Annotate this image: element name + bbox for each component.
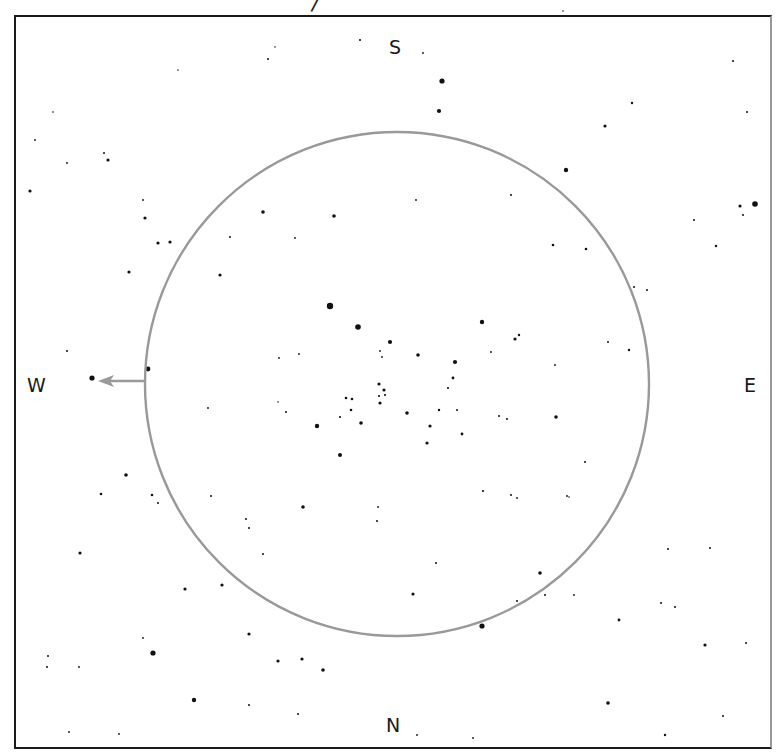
star	[461, 433, 464, 436]
star	[210, 495, 212, 497]
star	[68, 731, 70, 733]
star	[435, 562, 437, 564]
star	[584, 461, 586, 463]
star	[89, 375, 94, 380]
star	[664, 734, 666, 736]
star	[377, 382, 380, 385]
direction-west: W	[27, 374, 46, 396]
star	[262, 553, 264, 555]
star	[277, 401, 279, 403]
star	[633, 286, 635, 288]
star	[518, 334, 520, 336]
star	[607, 341, 609, 343]
star	[103, 152, 105, 154]
star	[66, 350, 68, 352]
star	[538, 571, 542, 575]
star	[382, 388, 385, 391]
star	[359, 421, 363, 425]
star	[338, 453, 342, 457]
star	[327, 303, 333, 309]
star	[482, 490, 484, 492]
star	[742, 214, 744, 216]
star	[566, 495, 568, 497]
star	[693, 219, 695, 221]
star	[276, 659, 279, 662]
motion-arrow	[98, 375, 146, 387]
star	[568, 496, 570, 498]
star	[156, 241, 159, 244]
star	[544, 594, 546, 596]
star	[456, 409, 458, 411]
star	[157, 502, 159, 504]
star	[506, 418, 508, 420]
star	[573, 594, 575, 596]
star	[34, 139, 36, 141]
direction-east: E	[744, 374, 756, 396]
star	[301, 505, 305, 509]
star	[447, 387, 449, 389]
star	[752, 201, 758, 207]
star	[379, 350, 381, 352]
star	[245, 518, 247, 520]
star	[127, 270, 130, 273]
star	[667, 548, 669, 550]
star	[428, 424, 431, 427]
star	[332, 214, 336, 218]
star	[298, 353, 300, 355]
star	[416, 734, 418, 736]
star	[562, 10, 564, 12]
star	[351, 398, 354, 401]
star	[738, 204, 741, 207]
star	[439, 78, 444, 83]
star	[415, 199, 417, 201]
star	[78, 551, 81, 554]
star	[377, 506, 379, 508]
star	[297, 713, 299, 715]
star	[100, 493, 103, 496]
star	[218, 273, 221, 276]
star	[321, 668, 325, 672]
star	[150, 650, 155, 655]
star	[207, 407, 209, 409]
star	[603, 124, 606, 127]
star	[248, 704, 250, 706]
star	[618, 619, 621, 622]
star	[425, 441, 428, 444]
star	[510, 494, 512, 496]
star	[143, 216, 146, 219]
star	[732, 60, 734, 62]
star	[405, 411, 409, 415]
star	[315, 424, 319, 428]
star	[746, 111, 748, 113]
star	[345, 397, 348, 400]
star	[106, 158, 109, 161]
star	[118, 733, 120, 735]
star	[437, 109, 441, 113]
star	[177, 69, 179, 71]
star	[411, 592, 414, 595]
star	[564, 168, 568, 172]
star	[422, 52, 424, 54]
star	[28, 189, 31, 192]
star	[745, 642, 747, 644]
star	[294, 237, 296, 239]
star	[52, 111, 54, 113]
star	[660, 602, 662, 604]
star	[510, 194, 512, 196]
star	[715, 245, 717, 247]
star	[438, 409, 440, 411]
star	[285, 411, 287, 413]
star	[472, 737, 474, 739]
star	[142, 199, 144, 201]
star	[416, 353, 420, 357]
star	[628, 349, 630, 351]
direction-south: S	[389, 36, 401, 58]
star	[124, 473, 128, 477]
star	[513, 337, 516, 340]
star	[452, 377, 455, 380]
star	[585, 248, 588, 251]
star	[220, 583, 223, 586]
star	[674, 606, 676, 608]
star	[142, 637, 144, 639]
star	[66, 162, 68, 164]
